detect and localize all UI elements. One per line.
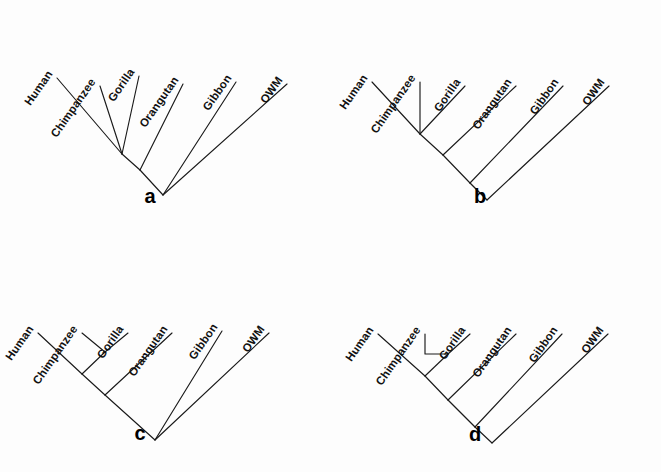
taxon-label-chimpanzee: Chimpanzee bbox=[368, 72, 417, 135]
taxon-label-gibbon: Gibbon bbox=[527, 76, 560, 116]
taxon-label-gibbon: Gibbon bbox=[526, 324, 559, 364]
tree-panel-d: HumanChimpanzeeGorillaOrangutanGibbonOWM… bbox=[330, 236, 660, 472]
hcgo-stem bbox=[105, 395, 155, 440]
taxon-label-human: Human bbox=[337, 72, 369, 111]
tree-canvas-a: HumanChimpanzeeGorillaOrangutanGibbonOWM… bbox=[0, 0, 330, 236]
tree-canvas-c: HumanChimpanzeeGorillaOrangutanGibbonOWM… bbox=[0, 236, 330, 472]
tree-canvas-d: HumanChimpanzeeGorillaOrangutanGibbonOWM… bbox=[330, 236, 660, 472]
panel-letter-c: c bbox=[134, 422, 145, 444]
panel-letter-a: a bbox=[144, 185, 156, 207]
taxon-label-gorilla: Gorilla bbox=[106, 66, 137, 104]
phylogenetic-trees-figure: HumanChimpanzeeGorillaOrangutanGibbonOWM… bbox=[0, 0, 661, 472]
tree-panel-a: HumanChimpanzeeGorillaOrangutanGibbonOWM… bbox=[0, 0, 330, 236]
taxon-label-gibbon: Gibbon bbox=[186, 321, 219, 361]
hcg-stem bbox=[420, 134, 443, 155]
taxon-label-human: Human bbox=[343, 324, 375, 363]
taxon-label-gorilla: Gorilla bbox=[437, 324, 468, 362]
taxon-label-human: Human bbox=[22, 68, 54, 107]
hcg-stem bbox=[425, 376, 448, 400]
tree-panel-b: HumanChimpanzeeGorillaOrangutanGibbonOWM… bbox=[330, 0, 660, 236]
panel-letter-d: d bbox=[469, 423, 481, 445]
taxon-label-orangutan: Orangutan bbox=[470, 76, 514, 131]
taxon-label-gorilla: Gorilla bbox=[432, 76, 463, 114]
taxon-label-chimpanzee: Chimpanzee bbox=[373, 324, 422, 387]
taxon-label-gorilla: Gorilla bbox=[95, 323, 126, 361]
hcg-stem bbox=[82, 374, 105, 395]
taxon-label-human: Human bbox=[3, 323, 35, 362]
taxon-label-orangutan: Orangutan bbox=[126, 323, 170, 378]
gibbon-branch bbox=[470, 86, 563, 183]
taxon-label-chimpanzee: Chimpanzee bbox=[48, 76, 97, 139]
gibbon-branch bbox=[155, 331, 222, 440]
panel-letter-b: b bbox=[474, 185, 486, 207]
tree-canvas-b: HumanChimpanzeeGorillaOrangutanGibbonOWM… bbox=[330, 0, 660, 236]
taxon-label-orangutan: Orangutan bbox=[470, 324, 514, 379]
tree-panel-c: HumanChimpanzeeGorillaOrangutanGibbonOWM… bbox=[0, 236, 330, 472]
gibbon-branch bbox=[163, 82, 236, 195]
hcg-stem bbox=[122, 154, 140, 170]
hcgo-stem bbox=[443, 155, 470, 183]
